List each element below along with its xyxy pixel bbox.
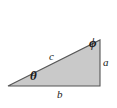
triangle-shape — [8, 40, 100, 86]
side-label-adjacent: b — [57, 89, 63, 100]
side-label-hypotenuse: c — [49, 51, 54, 62]
angle-label-phi: ϕ — [89, 36, 97, 49]
side-label-opposite: a — [103, 57, 109, 68]
triangle-figure: c a b θ ϕ — [0, 0, 117, 108]
angle-label-theta: θ — [30, 69, 37, 82]
